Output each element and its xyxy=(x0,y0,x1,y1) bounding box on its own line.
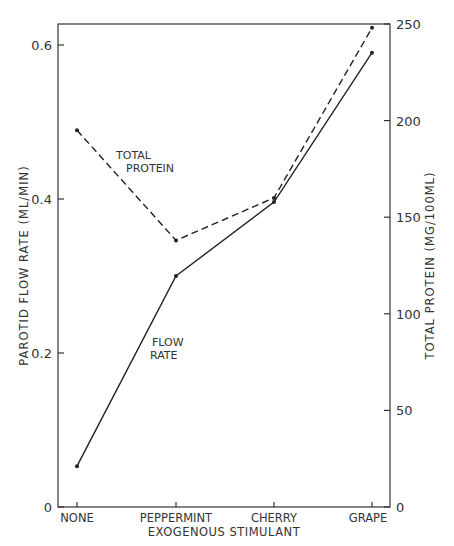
right-axis-tick-label: 0 xyxy=(396,500,404,515)
x-axis-tick-label: PEPPERMINT xyxy=(140,511,213,525)
total-protein-label-line1: TOTAL xyxy=(115,149,152,162)
x-axis-tick-label: GRAPE xyxy=(349,511,388,525)
right-axis-title: TOTAL PROTEIN (MG/100ML) xyxy=(423,171,437,360)
total-protein-line xyxy=(77,28,372,241)
data-point xyxy=(370,26,374,30)
flow-rate-label-line2: RATE xyxy=(150,349,178,362)
left-axis-tick-label: 0 xyxy=(44,500,52,515)
flow-rate-label-line1: FLOW xyxy=(152,336,184,349)
right-axis-tick-label: 100 xyxy=(396,307,421,322)
x-axis-tick-label: CHERRY xyxy=(251,511,298,525)
data-point xyxy=(174,274,178,278)
total-protein-label-line2: PROTEIN xyxy=(126,162,174,175)
x-axis-tick-label: NONE xyxy=(60,511,94,525)
x-axis-title: EXOGENOUS STIMULANT xyxy=(148,525,301,539)
data-point xyxy=(272,196,276,200)
right-axis-tick-label: 200 xyxy=(396,114,421,129)
data-point xyxy=(370,51,374,55)
right-axis-tick-label: 150 xyxy=(396,210,421,225)
data-point xyxy=(75,128,79,132)
left-axis-tick-label: 0.2 xyxy=(31,346,52,361)
left-axis-title: PAROTID FLOW RATE (ML/MIN) xyxy=(17,165,31,365)
data-point xyxy=(272,200,276,204)
left-axis-tick-label: 0.6 xyxy=(31,38,52,53)
flow-rate-line xyxy=(77,53,372,466)
left-axis-tick-label: 0.4 xyxy=(31,192,52,207)
right-axis-tick-label: 50 xyxy=(396,403,413,418)
line-chart: 00.20.40.6050100150200250NONEPEPPERMINTC… xyxy=(0,0,454,546)
data-point xyxy=(75,464,79,468)
data-point xyxy=(174,238,178,242)
right-axis-tick-label: 250 xyxy=(396,17,421,32)
plot-frame xyxy=(58,24,390,507)
